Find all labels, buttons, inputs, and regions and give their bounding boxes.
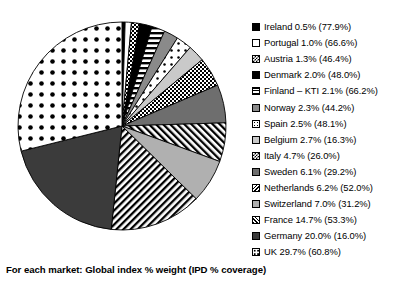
legend-item-austria[interactable]: Austria 1.3% (46.4%) xyxy=(252,51,414,67)
legend-swatch-solid-black-icon xyxy=(252,71,260,79)
legend-label: Germany 20.0% (16.0%) xyxy=(264,231,366,241)
legend-item-finland-kti[interactable]: Finland – KTI 2.1% (66.2%) xyxy=(252,83,414,99)
legend-item-germany[interactable]: Germany 20.0% (16.0%) xyxy=(252,228,414,244)
legend-label: Sweden 6.1% (29.2%) xyxy=(264,167,356,177)
legend-swatch-horizontal-icon xyxy=(252,87,260,95)
legend-item-switzerland[interactable]: Switzerland 7.0% (31.2%) xyxy=(252,196,414,212)
legend-item-ireland[interactable]: Ireland 0.5% (77.9%) xyxy=(252,19,414,35)
legend-label: Spain 2.5% (48.1%) xyxy=(264,119,346,129)
legend-swatch-diagonal-back-icon xyxy=(252,184,260,192)
legend-item-belgium[interactable]: Belgium 2.7% (16.3%) xyxy=(252,132,414,148)
legend-swatch-white-icon xyxy=(252,39,260,47)
pie-chart-svg xyxy=(14,12,230,244)
legend-label: France 14.7% (53.3%) xyxy=(264,215,357,225)
legend-item-netherlands[interactable]: Netherlands 6.2% (52.0%) xyxy=(252,180,414,196)
legend-swatch-gray-dark-icon xyxy=(252,104,260,112)
legend-item-sweden[interactable]: Sweden 6.1% (29.2%) xyxy=(252,164,414,180)
legend-item-denmark[interactable]: Denmark 2.0% (48.0%) xyxy=(252,67,414,83)
legend-label: Belgium 2.7% (16.3%) xyxy=(264,135,356,145)
legend-label: Ireland 0.5% (77.9%) xyxy=(264,22,351,32)
legend-swatch-gray-mid-icon xyxy=(252,200,260,208)
legend-label: Netherlands 6.2% (52.0%) xyxy=(264,183,373,193)
chart-legend: Ireland 0.5% (77.9%)Portugal 1.0% (66.6%… xyxy=(252,19,414,260)
legend-item-spain[interactable]: Spain 2.5% (48.1%) xyxy=(252,116,414,132)
legend-swatch-checker-fine-icon xyxy=(252,152,260,160)
legend-swatch-solid-black-icon xyxy=(252,23,260,31)
legend-item-italy[interactable]: Italy 4.7% (26.0%) xyxy=(252,148,414,164)
legend-item-france[interactable]: France 14.7% (53.3%) xyxy=(252,212,414,228)
legend-label: Norway 2.3% (44.2%) xyxy=(264,103,354,113)
pie-slice-group xyxy=(18,22,226,230)
legend-label: Portugal 1.0% (66.6%) xyxy=(264,38,357,48)
legend-swatch-dots-sparse-icon xyxy=(252,120,260,128)
legend-item-norway[interactable]: Norway 2.3% (44.2%) xyxy=(252,99,414,115)
pie-chart xyxy=(14,12,230,244)
legend-label: Denmark 2.0% (48.0%) xyxy=(264,70,360,80)
legend-label: Italy 4.7% (26.0%) xyxy=(264,151,340,161)
legend-item-portugal[interactable]: Portugal 1.0% (66.6%) xyxy=(252,35,414,51)
legend-swatch-checker-fine-icon xyxy=(252,55,260,63)
legend-swatch-solid-dark-icon xyxy=(252,232,260,240)
legend-label: Switzerland 7.0% (31.2%) xyxy=(264,199,371,209)
legend-swatch-gray-darker-icon xyxy=(252,168,260,176)
chart-caption: For each market: Global index % weight (… xyxy=(6,264,266,275)
legend-label: UK 29.7% (60.8%) xyxy=(264,247,341,257)
legend-label: Finland – KTI 2.1% (66.2%) xyxy=(264,86,378,96)
legend-item-uk[interactable]: UK 29.7% (60.8%) xyxy=(252,244,414,260)
pie-chart-figure: Ireland 0.5% (77.9%)Portugal 1.0% (66.6%… xyxy=(0,0,415,283)
legend-label: Austria 1.3% (46.4%) xyxy=(264,54,352,64)
legend-swatch-diagonal-fwd-icon xyxy=(252,216,260,224)
legend-swatch-gray-light-icon xyxy=(252,136,260,144)
legend-swatch-dots-bold-icon xyxy=(252,248,260,256)
